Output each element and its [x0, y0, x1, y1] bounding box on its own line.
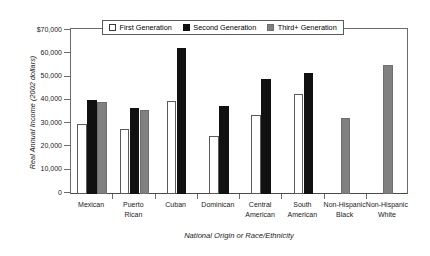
bar	[140, 110, 150, 194]
x-axis-separator	[112, 194, 113, 199]
y-axis-tick-label: 20,000	[16, 142, 62, 149]
x-axis-title: National Origin or Race/Ethnicity	[70, 231, 408, 240]
bar	[209, 136, 219, 194]
y-axis-tick-label: 50,000	[16, 72, 62, 79]
x-axis-separator	[281, 194, 282, 199]
legend-item-label: Second Generation	[193, 24, 256, 32]
bar	[77, 124, 87, 194]
y-axis-tick	[64, 76, 70, 77]
y-axis-tick-label: $70,000	[16, 26, 62, 33]
y-axis-tick-label: 60,000	[16, 49, 62, 56]
legend-item-label: Third+ Generation	[278, 24, 337, 32]
x-axis-separator	[366, 194, 367, 199]
y-axis-tick-label: 0	[16, 189, 62, 196]
bars-layer	[71, 29, 407, 194]
bar	[383, 65, 393, 194]
legend-item: Third+ Generation	[267, 24, 337, 32]
x-axis-separator	[197, 194, 198, 199]
y-axis-tick-label: 40,000	[16, 95, 62, 102]
bar	[130, 108, 140, 194]
x-axis-tick-label: Non-HispanicWhite	[360, 200, 414, 219]
legend-swatch-icon	[109, 24, 116, 31]
bar	[341, 118, 351, 194]
bar	[219, 106, 229, 194]
bar-chart: Real Annual Income (2002 dollars) $70,00…	[0, 0, 430, 256]
y-axis-tick	[64, 192, 70, 193]
y-axis-tick	[64, 122, 70, 123]
chart-legend: First GenerationSecond GenerationThird+ …	[102, 20, 344, 35]
bar	[304, 73, 314, 194]
y-axis-tick	[64, 29, 70, 30]
y-axis-tick-label: 30,000	[16, 119, 62, 126]
bar	[167, 101, 177, 194]
x-axis-tick-label-line: White	[360, 210, 414, 220]
x-axis-tick-label-line: Rican	[106, 210, 160, 220]
y-axis-tick-label: 10,000	[16, 165, 62, 172]
legend-item: Second Generation	[183, 24, 256, 32]
y-axis-tick	[64, 145, 70, 146]
bar	[251, 115, 261, 194]
x-axis-separator	[239, 194, 240, 199]
bar	[87, 100, 97, 194]
y-axis-tick	[64, 169, 70, 170]
bar	[294, 94, 304, 194]
x-axis-tick-label-line: Non-Hispanic	[360, 200, 414, 210]
y-axis-tick	[64, 52, 70, 53]
bar	[120, 129, 130, 194]
bar	[97, 102, 107, 194]
x-axis-separator	[155, 194, 156, 199]
legend-swatch-icon	[267, 24, 274, 31]
bar	[261, 79, 271, 194]
x-axis-tick-labels: MexicanPuertoRicanCubanDominicanCentralA…	[70, 200, 408, 230]
x-axis-separator	[324, 194, 325, 199]
bar	[177, 48, 187, 194]
legend-item-label: First Generation	[120, 24, 172, 32]
legend-item: First Generation	[109, 24, 172, 32]
legend-swatch-icon	[183, 24, 190, 31]
y-axis-tick	[64, 99, 70, 100]
